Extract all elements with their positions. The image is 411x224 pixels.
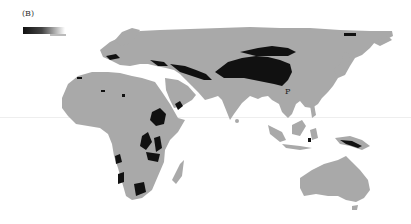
landmass-australia: [300, 156, 370, 210]
panel-label: (B): [22, 9, 34, 18]
world-map: P: [0, 0, 411, 224]
legend-gradient-bar: [23, 27, 66, 36]
annotation-label: P: [285, 87, 291, 96]
